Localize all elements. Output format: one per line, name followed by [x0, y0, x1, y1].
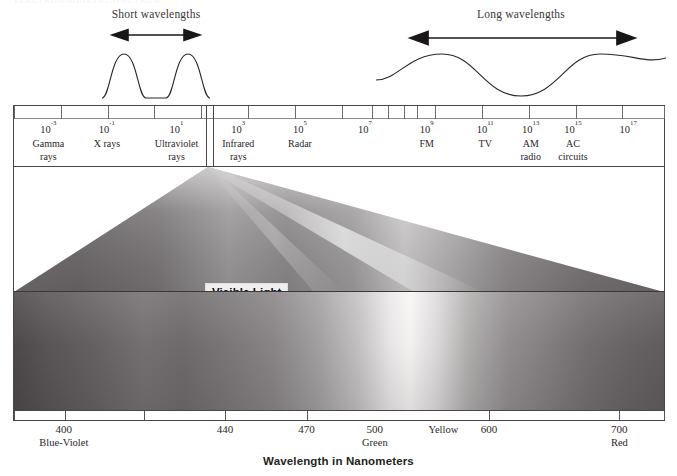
em-band-name-line: Ultraviolet — [155, 138, 198, 151]
nanometer-tick — [144, 411, 145, 420]
em-scale-tick — [342, 106, 343, 119]
nanometer-label: 500Green — [362, 423, 388, 449]
em-band-name-line: FM — [420, 138, 434, 151]
em-band-exponent: 10-3 — [40, 124, 56, 135]
light-cone — [14, 167, 664, 292]
nanometer-tick — [307, 411, 308, 420]
em-band-exponent: 105 — [293, 124, 307, 135]
em-band-exponent: 1013 — [522, 124, 539, 135]
em-band-label: 103Infraredrays — [222, 121, 254, 164]
em-scale-tick — [388, 106, 389, 119]
em-scale-tick — [372, 106, 373, 119]
em-band-name-line: rays — [222, 151, 254, 164]
visible-light-panel: Visible Light — [14, 167, 664, 410]
em-band-exponent: 1017 — [620, 124, 637, 135]
long-wavelength-label: Long wavelengths — [376, 8, 666, 20]
em-scale-tick — [108, 106, 109, 119]
spectrum-vignette — [14, 292, 664, 410]
nanometer-value: 400 — [56, 423, 73, 435]
em-scale-tick — [248, 106, 249, 119]
em-band-exponent: 10-1 — [99, 124, 115, 135]
em-scale-tick — [435, 106, 436, 119]
short-wavelength-diagram: Short wavelengths — [72, 8, 240, 103]
em-band-name-line: AM — [520, 138, 541, 151]
em-band-name: Radar — [288, 138, 312, 151]
em-band-name-line: AC — [558, 138, 587, 151]
em-scale-tick — [201, 106, 202, 119]
visible-spectrum-band — [14, 291, 664, 410]
short-wave-arrow — [112, 30, 200, 41]
em-scale-tick — [154, 106, 155, 119]
nanometer-tick — [225, 411, 226, 420]
nanometer-tick — [65, 411, 66, 420]
em-band-name-line: rays — [33, 151, 65, 164]
em-scale-tick — [404, 106, 405, 119]
em-scale-tick — [664, 106, 665, 119]
em-scale-tick — [482, 106, 483, 119]
em-band-label: 107 — [358, 121, 372, 137]
long-waveform — [376, 54, 666, 96]
spectrum-color-name: Yellow — [428, 423, 458, 436]
em-band-name: Ultravioletrays — [155, 138, 198, 163]
nanometer-label: 600 — [481, 423, 498, 436]
nanometer-label: 440 — [217, 423, 234, 436]
em-scale-tick-row — [14, 106, 664, 119]
em-band-name: TV — [477, 138, 494, 151]
em-band-label: 1011TV — [477, 121, 494, 151]
em-band-name-line: Gamma — [33, 138, 65, 151]
nanometer-value: 700 — [611, 423, 628, 435]
em-band-exponent: 1015 — [564, 124, 581, 135]
em-band-label: 1017 — [620, 121, 637, 137]
long-wave-arrow — [410, 32, 635, 45]
em-band-name: X rays — [94, 138, 120, 151]
nanometer-value: 470 — [298, 423, 315, 435]
em-band-name-line: rays — [155, 151, 198, 164]
em-scale-tick — [61, 106, 62, 119]
nanometer-tick — [619, 411, 620, 420]
short-waveform — [102, 54, 210, 98]
nanometer-label: 470 — [298, 423, 315, 436]
em-band-name-line: circuits — [558, 151, 587, 164]
em-scale-tick — [14, 106, 15, 119]
nanometer-tick — [14, 411, 15, 420]
em-band-exponent: 103 — [231, 124, 245, 135]
em-scale-band: 10-3Gammarays10-1X rays101Ultravioletray… — [14, 106, 664, 167]
long-wavelength-diagram: Long wavelengths — [376, 8, 666, 103]
em-scale-tick — [622, 106, 623, 119]
top-caption: ELECTROMAGNETIC SPECTRUM — [14, 0, 314, 5]
axis-title: Wavelength in Nanometers — [0, 455, 677, 467]
nanometer-tick — [489, 411, 490, 420]
em-band-name: Infraredrays — [222, 138, 254, 163]
em-band-name: Gammarays — [33, 138, 65, 163]
em-band-label: 109FM — [420, 121, 434, 151]
em-band-name: AMradio — [520, 138, 541, 163]
nanometer-ruler — [13, 410, 665, 421]
nanometer-label: Yellow — [428, 423, 458, 436]
em-band-name-line: Infrared — [222, 138, 254, 151]
nanometer-label: 700Red — [611, 423, 628, 449]
nanometer-tick — [664, 411, 665, 420]
em-band-name-line: radio — [520, 151, 541, 164]
spectrum-chart-frame: 10-3Gammarays10-1X rays101Ultravioletray… — [13, 105, 665, 411]
em-scale-tick — [529, 106, 530, 119]
em-band-exponent: 109 — [420, 124, 434, 135]
spectrum-color-name: Red — [611, 436, 628, 449]
long-wave-svg — [376, 24, 666, 102]
em-band-name-line: X rays — [94, 138, 120, 151]
visible-light-slot-divider — [206, 106, 207, 166]
em-band-name: FM — [420, 138, 434, 151]
em-band-name: ACcircuits — [558, 138, 587, 163]
spectrum-color-name: Green — [362, 436, 388, 449]
em-band-label: 10-3Gammarays — [33, 121, 65, 164]
em-band-label: 1013AMradio — [520, 121, 541, 164]
spectrum-color-name: Blue-Violet — [39, 436, 88, 449]
nanometer-label: 400Blue-Violet — [39, 423, 88, 449]
em-band-exponent: 1011 — [477, 124, 494, 135]
em-band-label: 101Ultravioletrays — [155, 121, 198, 164]
em-scale-tick — [417, 106, 418, 119]
em-band-exponent: 101 — [170, 124, 184, 135]
nanometer-value: 440 — [217, 423, 234, 435]
nanometer-value: 500 — [367, 423, 384, 435]
nanometer-value: 600 — [481, 423, 498, 435]
em-scale-tick — [576, 106, 577, 119]
